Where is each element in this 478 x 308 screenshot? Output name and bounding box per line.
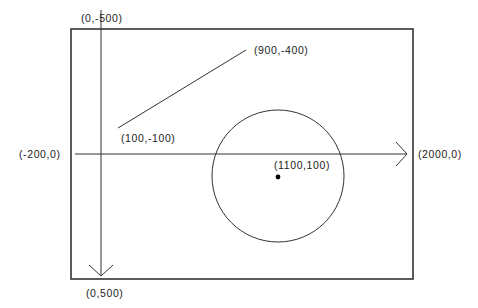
label-x-axis-left: (-200,0) bbox=[19, 148, 61, 160]
label-y-axis-top: (0,-500) bbox=[81, 12, 123, 24]
label-line-start: (100,-100) bbox=[121, 132, 175, 144]
label-x-axis-right: (2000,0) bbox=[418, 148, 462, 160]
line-segment bbox=[118, 50, 246, 128]
y-axis bbox=[89, 10, 113, 276]
label-line-end: (900,-400) bbox=[254, 44, 308, 56]
label-circle-center: (1100,100) bbox=[274, 159, 330, 171]
x-axis bbox=[75, 142, 407, 166]
diagram-canvas: (0,-500) (0,500) (-200,0) (2000,0) (100,… bbox=[0, 0, 478, 308]
circle-center-dot bbox=[276, 175, 281, 180]
label-y-axis-bottom: (0,500) bbox=[86, 287, 123, 299]
